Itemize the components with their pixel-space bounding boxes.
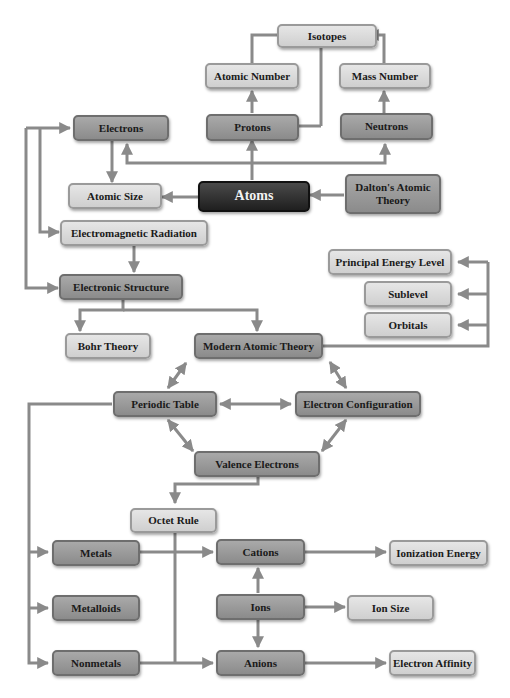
node-neutrons: Neutrons [340,113,433,140]
node-periodic-table: Periodic Table [113,391,217,417]
node-modern-atomic-theory: Modern Atomic Theory [194,333,323,359]
node-atoms: Atoms [198,181,310,212]
node-atomic-size: Atomic Size [68,183,162,209]
node-ions: Ions [216,594,305,620]
node-electrons: Electrons [73,115,169,141]
node-bohr-theory: Bohr Theory [65,333,151,359]
node-atomic-number: Atomic Number [205,63,299,89]
node-sublevel: Sublevel [364,281,452,307]
node-orbitals: Orbitals [364,312,452,338]
node-principal-energy-level: Principal Energy Level [328,249,452,275]
node-cations: Cations [216,539,305,565]
node-metals: Metals [52,540,140,566]
concept-map: Isotopes Atomic Number Mass Number Elect… [0,0,510,698]
node-electron-configuration: Electron Configuration [295,391,421,417]
node-nonmetals: Nonmetals [52,650,140,676]
node-ion-size: Ion Size [347,595,434,621]
node-ionization-energy: Ionization Energy [389,540,488,566]
node-anions: Anions [216,650,305,676]
node-metalloids: Metalloids [52,595,140,621]
node-mass-number: Mass Number [339,63,431,89]
node-daltons-atomic-theory: Dalton's Atomic Theory [345,174,441,214]
node-electromagnetic-radiation: Electromagnetic Radiation [60,220,208,246]
node-valence-electrons: Valence Electrons [194,451,320,477]
node-protons: Protons [206,114,299,141]
node-electron-affinity: Electron Affinity [389,650,476,676]
node-isotopes: Isotopes [277,24,377,48]
node-octet-rule: Octet Rule [130,508,217,533]
node-electronic-structure: Electronic Structure [59,274,183,300]
